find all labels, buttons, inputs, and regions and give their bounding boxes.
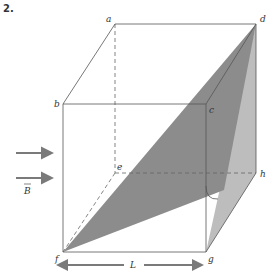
problem-number: 2. [3, 3, 14, 14]
vertex-b: b [54, 99, 60, 109]
vertex-a: a [106, 14, 111, 24]
cube-diagram: 2. B L a b c d e f g h [0, 0, 274, 271]
vertex-e: e [117, 162, 122, 172]
vertex-f: f [54, 254, 60, 264]
vertex-g: g [208, 254, 214, 264]
vertex-d: d [260, 14, 266, 24]
field-label: B [23, 186, 31, 196]
vertex-c: c [209, 105, 214, 115]
length-label: L [129, 260, 136, 270]
vertex-h: h [260, 169, 266, 179]
